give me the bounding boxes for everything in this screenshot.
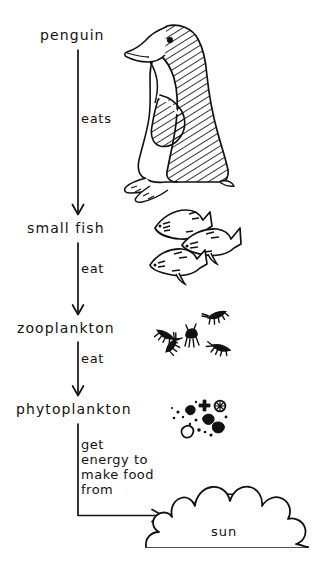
- zooplankton-illustration: [153, 306, 231, 358]
- small-fish-illustration: [150, 210, 241, 284]
- node-label-penguin: penguin: [40, 27, 105, 44]
- food-chain-diagram: penguin small fish zooplankton phytoplan…: [0, 0, 324, 566]
- diagram-canvas: [0, 0, 324, 566]
- node-label-zooplankton: zooplankton: [17, 320, 115, 337]
- edge-label-eats: eats: [81, 111, 112, 126]
- edge-label-eat-1: eat: [81, 261, 104, 276]
- edge-small-fish-to-zooplankton: [73, 243, 84, 315]
- node-label-sun: sun: [211, 524, 237, 539]
- node-label-small-fish: small fish: [27, 220, 105, 237]
- penguin-illustration: [125, 25, 234, 202]
- node-label-phytoplankton: phytoplankton: [16, 401, 132, 418]
- phytoplankton-illustration: [171, 400, 228, 438]
- edge-label-get-energy-to-make-food-from: get energy to make food from: [81, 437, 154, 497]
- edge-label-eat-2: eat: [81, 351, 104, 366]
- edge-penguin-to-small-fish: [72, 50, 83, 215]
